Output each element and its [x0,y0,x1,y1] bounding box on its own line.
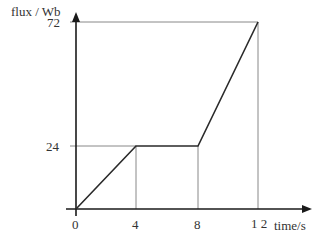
x-tick-12: 1 2 [251,216,267,231]
x-tick-8: 8 [194,217,201,232]
axes [66,20,304,216]
flux-time-chart: flux / Wb 72 24 0 4 8 1 2 time/s [0,0,319,233]
y-tick-24: 24 [46,139,60,154]
x-tick-0: 0 [72,217,79,232]
x-axis-arrow-icon [302,205,312,213]
x-axis-label: time/s [274,218,306,233]
x-tick-4: 4 [132,217,139,232]
y-axis-arrow-icon [72,12,80,22]
guide-lines [70,22,258,209]
flux-series-line [76,22,258,209]
y-tick-72: 72 [47,15,60,30]
